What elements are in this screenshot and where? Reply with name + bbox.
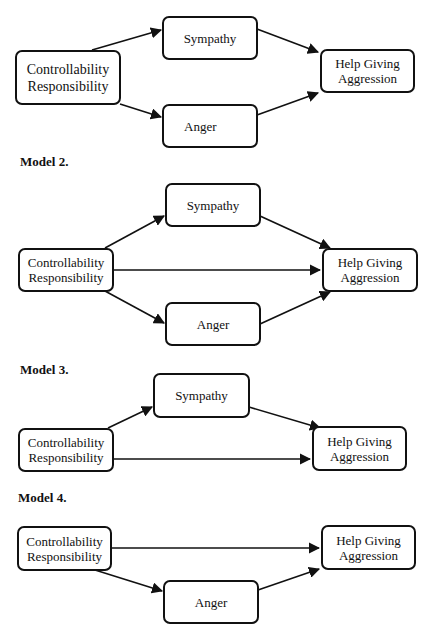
node-text: Responsibility — [28, 78, 109, 95]
m1-arrow-cause-sympathy — [92, 30, 161, 50]
node-text: Controllability — [28, 435, 105, 450]
m3-node-controllability: Controllability Responsibility — [18, 428, 114, 472]
m2-node-controllability: Controllability Responsibility — [18, 248, 114, 292]
node-text: Help Giving — [338, 255, 403, 270]
model-3-label: Model 3. — [20, 362, 68, 378]
m4-arrow-cause-anger — [95, 570, 162, 591]
m1-arrow-anger-outcome — [257, 93, 318, 115]
m3-node-sympathy: Sympathy — [153, 373, 250, 418]
m4-node-outcome: Help Giving Aggression — [321, 525, 416, 570]
m1-arrow-cause-anger — [120, 104, 161, 117]
m2-arrow-sympathy-outcome — [260, 216, 330, 248]
node-text: Responsibility — [28, 270, 103, 285]
m2-node-outcome: Help Giving Aggression — [322, 248, 418, 292]
node-text: Aggression — [339, 548, 398, 563]
m4-arrow-anger-outcome — [258, 569, 319, 590]
m3-arrow-cause-sympathy — [108, 407, 152, 428]
node-text: Responsibility — [27, 549, 102, 564]
node-text: Aggression — [338, 71, 397, 86]
node-text: Anger — [197, 317, 230, 332]
node-text: Controllability — [28, 255, 105, 270]
node-text: Anger — [195, 595, 228, 610]
m4-node-controllability: Controllability Responsibility — [17, 526, 112, 571]
m2-arrow-cause-sympathy — [105, 216, 164, 248]
m2-node-anger: Anger — [165, 302, 261, 346]
m1-node-controllability: Controllability Responsibility — [15, 50, 121, 105]
m2-node-sympathy: Sympathy — [165, 183, 261, 227]
node-text: Sympathy — [187, 198, 240, 213]
node-text: Aggression — [340, 270, 399, 285]
m1-arrow-sympathy-outcome — [257, 29, 318, 52]
model-4-label: Model 4. — [18, 490, 66, 506]
m2-arrow-cause-anger — [105, 291, 164, 323]
node-text: Sympathy — [184, 31, 237, 46]
m1-node-sympathy: Sympathy — [162, 16, 258, 60]
model-2-label: Model 2. — [20, 154, 68, 170]
node-text: Aggression — [330, 449, 389, 464]
node-text: Anger — [184, 119, 217, 134]
node-text: Controllability — [26, 534, 103, 549]
m3-node-outcome: Help Giving Aggression — [312, 426, 407, 471]
m4-node-anger: Anger — [163, 580, 259, 624]
m1-node-outcome: Help Giving Aggression — [320, 49, 415, 93]
node-text: Help Giving — [327, 434, 392, 449]
node-text: Responsibility — [28, 450, 103, 465]
node-text: Controllability — [27, 61, 109, 78]
node-text: Sympathy — [175, 388, 228, 403]
m1-node-anger: Anger — [162, 104, 258, 148]
m3-arrow-sympathy-outcome — [249, 407, 320, 428]
node-text: Help Giving — [335, 56, 400, 71]
node-text: Help Giving — [336, 533, 401, 548]
m2-arrow-anger-outcome — [260, 292, 330, 324]
